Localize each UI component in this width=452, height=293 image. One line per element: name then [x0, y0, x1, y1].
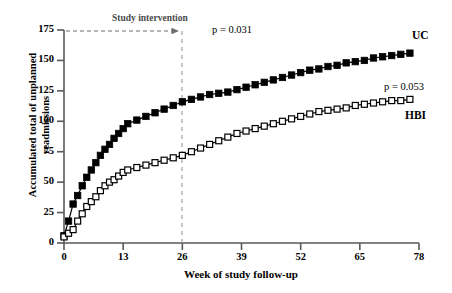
x-axis-ticks: [64, 243, 419, 250]
data-point: [216, 90, 222, 96]
data-point: [325, 107, 331, 113]
y-tick-label: 125: [10, 84, 54, 95]
data-point: [234, 86, 240, 92]
data-point: [352, 58, 358, 64]
data-point: [407, 96, 413, 102]
data-point: [74, 192, 80, 198]
data-point: [97, 152, 103, 158]
p-value-bottom: p = 0.053: [384, 81, 424, 92]
data-point: [198, 145, 204, 151]
data-point: [188, 96, 194, 102]
data-point: [225, 89, 231, 95]
data-point: [143, 162, 149, 168]
data-point: [379, 54, 385, 60]
x-tick-label: 0: [44, 251, 84, 262]
data-point: [170, 102, 176, 108]
data-point: [161, 157, 167, 163]
data-point: [343, 105, 349, 111]
data-point: [179, 99, 185, 105]
data-point: [106, 141, 112, 147]
data-point: [216, 138, 222, 144]
x-tick-label: 13: [103, 251, 143, 262]
data-point: [225, 134, 231, 140]
data-point: [79, 183, 85, 189]
data-point: [270, 121, 276, 127]
data-point: [134, 117, 140, 123]
y-tick-label: 25: [10, 206, 54, 217]
data-point: [243, 128, 249, 134]
data-point: [370, 55, 376, 61]
data-point: [252, 126, 258, 132]
x-tick-label: 52: [281, 251, 321, 262]
series-label-uc: UC: [412, 29, 429, 41]
data-point: [325, 63, 331, 69]
data-point: [134, 165, 140, 171]
series-hbi: [61, 96, 413, 240]
data-point: [125, 121, 131, 127]
data-point: [252, 82, 258, 88]
data-point: [361, 101, 367, 107]
data-point: [197, 94, 203, 100]
data-point: [288, 72, 294, 78]
data-point: [206, 91, 212, 97]
data-point: [279, 118, 285, 124]
data-point: [261, 79, 267, 85]
data-point: [79, 211, 85, 217]
chart-figure: Accumulated total of unplanned readmissi…: [0, 0, 452, 293]
series-label-hbi: HBI: [405, 109, 426, 121]
data-point: [398, 98, 404, 104]
data-point: [279, 74, 285, 80]
data-point: [297, 69, 303, 75]
data-point: [261, 123, 267, 129]
data-point: [398, 51, 404, 57]
data-point: [188, 149, 194, 155]
data-point: [380, 99, 386, 105]
data-point: [307, 111, 313, 117]
data-point: [361, 57, 367, 63]
data-point: [389, 98, 395, 104]
y-tick-label: 100: [10, 114, 54, 125]
data-point: [93, 194, 99, 200]
data-point: [143, 113, 149, 119]
data-point: [270, 77, 276, 83]
data-point: [93, 159, 99, 165]
data-point: [343, 60, 349, 66]
data-point: [70, 227, 76, 233]
p-value-top: p = 0.031: [212, 24, 252, 35]
series-uc: [61, 50, 413, 239]
data-point: [388, 52, 394, 58]
data-point: [316, 66, 322, 72]
data-point: [152, 160, 158, 166]
data-point: [88, 167, 94, 173]
x-tick-label: 78: [399, 251, 439, 262]
data-point: [70, 201, 76, 207]
data-point: [352, 102, 358, 108]
data-point: [179, 152, 185, 158]
data-point: [65, 218, 71, 224]
data-point: [307, 67, 313, 73]
y-tick-label: 150: [10, 53, 54, 64]
data-point: [370, 100, 376, 106]
data-point: [334, 62, 340, 68]
x-tick-label: 65: [340, 251, 380, 262]
data-point: [334, 106, 340, 112]
data-point: [407, 50, 413, 56]
data-point: [161, 106, 167, 112]
y-tick-label: 75: [10, 145, 54, 156]
data-point: [298, 113, 304, 119]
plot-canvas: [0, 0, 452, 293]
data-point: [170, 155, 176, 161]
data-point: [316, 109, 322, 115]
data-point: [125, 167, 131, 173]
data-point: [84, 174, 90, 180]
data-point: [234, 130, 240, 136]
x-tick-label: 39: [222, 251, 262, 262]
data-point: [152, 110, 158, 116]
data-point: [75, 218, 81, 224]
y-axis-ticks: [57, 30, 64, 243]
x-axis-label: Week of study follow-up: [60, 268, 422, 280]
data-series-layer: [61, 50, 413, 240]
x-tick-label: 26: [162, 251, 202, 262]
y-tick-label: 50: [10, 175, 54, 186]
data-point: [243, 84, 249, 90]
